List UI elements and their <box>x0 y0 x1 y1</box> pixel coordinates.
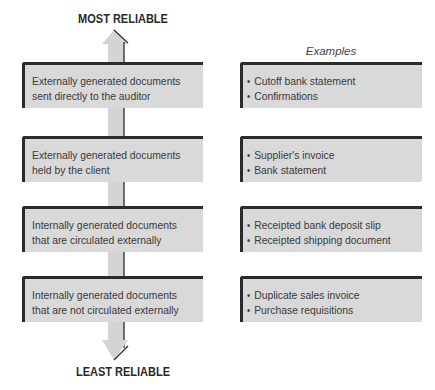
example-item: Duplicate sales invoice <box>247 288 359 303</box>
example-item: Supplier's invoice <box>247 148 334 163</box>
evidence-type-text: Internally generated documents that are … <box>32 288 179 318</box>
evidence-type-text: Externally generated documents sent dire… <box>32 74 180 104</box>
evidence-type-box-3: Internally generated documents that are … <box>22 206 203 252</box>
examples-heading: Examples <box>240 45 422 57</box>
example-item: Receipted bank deposit slip <box>247 218 391 233</box>
examples-list: Duplicate sales invoice Purchase requisi… <box>247 288 359 318</box>
evidence-type-box-2: Externally generated documents held by t… <box>22 136 203 182</box>
evidence-type-box-1: Externally generated documents sent dire… <box>22 62 203 108</box>
examples-box-2: Supplier's invoice Bank statement <box>240 136 422 182</box>
evidence-type-line: held by the client <box>32 163 180 178</box>
example-item: Purchase requisitions <box>247 303 359 318</box>
evidence-type-line: that are not circulated externally <box>32 303 179 318</box>
evidence-type-line: Internally generated documents <box>32 218 177 233</box>
examples-list: Supplier's invoice Bank statement <box>247 148 334 178</box>
most-reliable-label: MOST RELIABLE <box>53 12 194 26</box>
examples-list: Cutoff bank statement Confirmations <box>247 74 355 104</box>
evidence-type-line: Externally generated documents <box>32 148 180 163</box>
evidence-type-line: Internally generated documents <box>32 288 179 303</box>
examples-list: Receipted bank deposit slip Receipted sh… <box>247 218 391 248</box>
example-item: Bank statement <box>247 163 334 178</box>
evidence-type-line: sent directly to the auditor <box>32 89 180 104</box>
evidence-type-text: Internally generated documents that are … <box>32 218 177 248</box>
evidence-type-line: Externally generated documents <box>32 74 180 89</box>
example-item: Cutoff bank statement <box>247 74 355 89</box>
examples-box-1: Cutoff bank statement Confirmations <box>240 62 422 108</box>
least-reliable-label: LEAST RELIABLE <box>53 365 194 379</box>
reliability-arrow <box>0 0 435 390</box>
examples-box-3: Receipted bank deposit slip Receipted sh… <box>240 206 422 252</box>
evidence-type-box-4: Internally generated documents that are … <box>22 276 203 322</box>
examples-box-4: Duplicate sales invoice Purchase requisi… <box>240 276 422 322</box>
evidence-type-text: Externally generated documents held by t… <box>32 148 180 178</box>
evidence-type-line: that are circulated externally <box>32 233 177 248</box>
example-item: Confirmations <box>247 89 355 104</box>
example-item: Receipted shipping document <box>247 233 391 248</box>
